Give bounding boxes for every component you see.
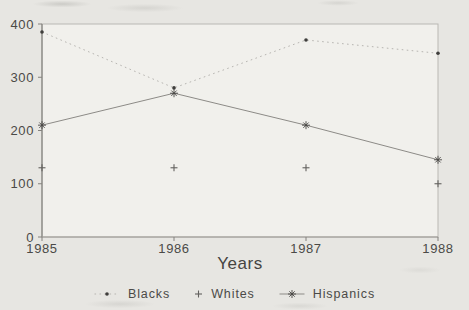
dot-marker-icon [105,292,109,296]
whites-plus-marker-icon [194,289,203,299]
legend-label-hispanics: Hispanics [313,287,375,301]
hispanics-solid-line-asterisk-marker-icon [279,289,305,299]
dot-marker-icon [436,51,440,55]
dot-marker-icon [40,30,44,34]
legend-item-blacks: Blacks [94,287,170,301]
legend-label-whites: Whites [211,287,255,301]
y-tick-label: 100 [11,176,35,191]
dot-marker-icon [304,38,308,42]
x-axis-title: Years [42,254,438,274]
blacks-dotted-line-dot-marker-icon [94,289,120,299]
legend: Blacks Whites Hispanics [0,287,469,301]
scanned-chart-page: 01002003004001985198619871988 Years Blac… [0,0,469,310]
legend-item-whites: Whites [194,287,255,301]
legend-label-blacks: Blacks [128,287,170,301]
y-tick-label: 300 [11,70,35,85]
asterisk-marker-icon [288,290,296,298]
plus-marker-icon [195,291,202,298]
y-tick-label: 400 [11,17,35,32]
legend-item-hispanics: Hispanics [279,287,375,301]
dot-marker-icon [172,86,176,90]
y-tick-label: 200 [11,123,35,138]
plot-backdrop [42,24,438,237]
